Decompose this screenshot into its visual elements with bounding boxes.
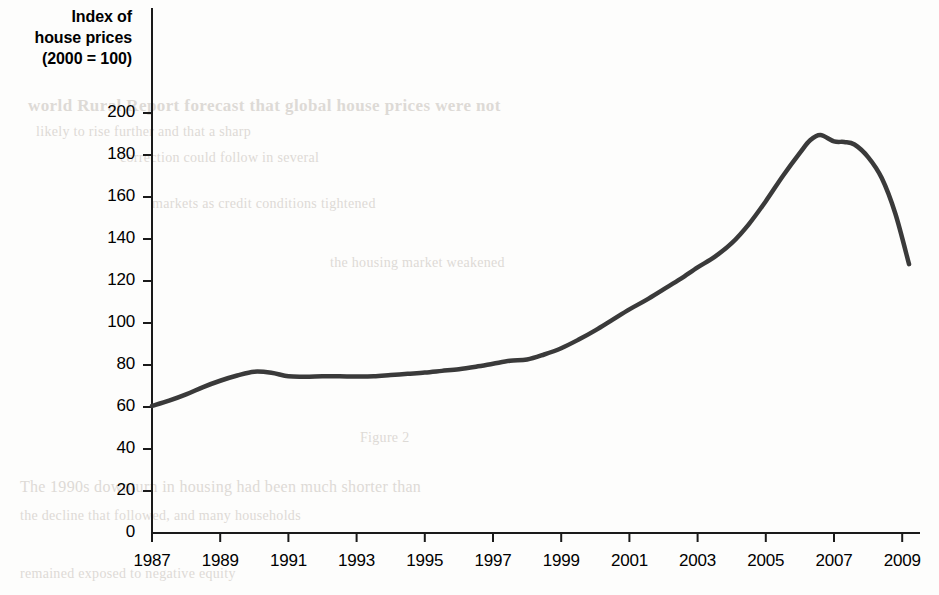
y-tick-label-160: 160 [73, 186, 135, 206]
x-tick-label-1989: 1989 [185, 551, 255, 571]
y-axis-ticks [143, 113, 152, 491]
x-tick-label-2007: 2007 [799, 551, 869, 571]
house-price-line [152, 135, 909, 406]
y-tick-label-20: 20 [73, 480, 135, 500]
x-tick-label-1993: 1993 [322, 551, 392, 571]
x-tick-label-2009: 2009 [867, 551, 937, 571]
x-tick-label-1987: 1987 [117, 551, 187, 571]
y-tick-label-0: 0 [73, 522, 135, 542]
y-tick-label-180: 180 [73, 144, 135, 164]
x-tick-label-1995: 1995 [390, 551, 460, 571]
x-tick-label-1999: 1999 [526, 551, 596, 571]
x-axis-ticks [152, 533, 902, 542]
y-tick-label-60: 60 [73, 396, 135, 416]
x-tick-label-2003: 2003 [663, 551, 733, 571]
y-tick-label-140: 140 [73, 228, 135, 248]
x-tick-label-1997: 1997 [458, 551, 528, 571]
axes [152, 8, 920, 533]
y-tick-label-40: 40 [73, 438, 135, 458]
x-tick-label-2005: 2005 [731, 551, 801, 571]
y-tick-label-100: 100 [73, 312, 135, 332]
y-tick-label-200: 200 [73, 102, 135, 122]
house-price-chart-figure: world Rural Report forecast that global … [0, 0, 939, 595]
x-tick-label-2001: 2001 [594, 551, 664, 571]
y-tick-label-120: 120 [73, 270, 135, 290]
y-tick-label-80: 80 [73, 354, 135, 374]
plot-area [0, 0, 939, 595]
x-tick-label-1991: 1991 [253, 551, 323, 571]
